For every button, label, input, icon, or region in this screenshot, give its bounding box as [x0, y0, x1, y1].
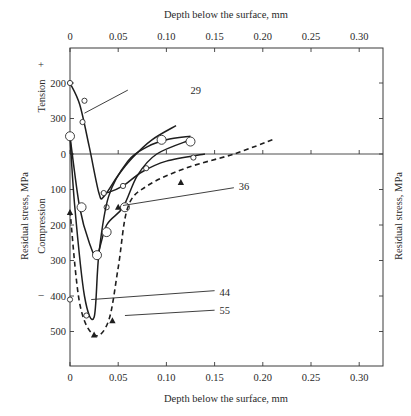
x-tick-label-bottom: 0 — [67, 372, 72, 383]
circle-marker — [101, 190, 106, 195]
tension-sign: + — [38, 59, 44, 70]
y-axis-title-left: Residual stress, MPa — [19, 172, 30, 260]
x-tick-label-bottom: 0.05 — [109, 372, 127, 383]
circle-marker — [191, 155, 196, 160]
x-axis-title-top: Depth below the surface, mm — [164, 9, 288, 20]
x-axis-title-bottom: Depth below the surface, mm — [164, 393, 288, 404]
x-tick-label-top: 0.05 — [109, 31, 127, 42]
tension-label: Tension — [36, 79, 47, 113]
circle-marker — [120, 183, 125, 188]
x-tick-label-bottom: 0.15 — [205, 372, 223, 383]
x-tick-label-top: 0.20 — [254, 31, 272, 42]
y-tick-label: 200 — [50, 78, 66, 89]
circle-marker — [92, 251, 101, 260]
y-tick-label: 100 — [50, 184, 66, 195]
leader-line — [91, 291, 214, 300]
compression-sign: – — [37, 289, 44, 300]
leader-line — [123, 188, 234, 206]
y-tick-label: 400 — [50, 291, 66, 302]
leader-line — [84, 90, 127, 113]
x-tick-label-top: 0.15 — [205, 31, 223, 42]
y-tick-label: 200 — [50, 220, 66, 231]
y-tick-label: 300 — [50, 113, 66, 124]
x-tick-label-bottom: 0.30 — [350, 372, 368, 383]
series-large-circles — [66, 132, 196, 260]
x-tick-label-top: 0 — [67, 31, 72, 42]
x-tick-label-top: 0.30 — [350, 31, 368, 42]
circle-marker — [82, 98, 87, 103]
y-axis-title-right: Residual stress, MPa — [393, 172, 404, 260]
curve-label-29: 29 — [191, 85, 202, 96]
circle-marker — [66, 132, 75, 141]
series-44 — [67, 136, 190, 319]
series-36 — [101, 154, 205, 210]
x-tick-label-bottom: 0.10 — [157, 372, 175, 383]
curve-line — [70, 136, 191, 319]
circle-marker — [157, 135, 166, 144]
y-tick-label: 300 — [50, 255, 66, 266]
curve-label-55: 55 — [219, 305, 230, 316]
x-tick-label-bottom: 0.20 — [254, 372, 272, 383]
series-55 — [67, 140, 273, 338]
triangle-marker — [67, 209, 73, 215]
circle-marker — [186, 137, 195, 146]
y-tick-label: 500 — [50, 326, 66, 337]
circle-marker — [67, 80, 72, 85]
curve-labels: 29364455 — [84, 85, 249, 316]
circle-marker — [67, 297, 72, 302]
y-tick-label: 0 — [61, 149, 66, 160]
triangle-marker — [91, 332, 97, 338]
y-ticks: 2003000100200300400500 — [50, 78, 383, 338]
leader-line — [125, 310, 215, 315]
curve-label-44: 44 — [219, 287, 230, 298]
compression-label: Compression — [36, 198, 47, 254]
curve-label-36: 36 — [239, 181, 250, 192]
x-tick-label-top: 0.10 — [157, 31, 175, 42]
x-ticks: 000.050.050.100.100.150.150.200.200.250.… — [67, 31, 368, 383]
curve-line — [101, 154, 205, 193]
circle-marker — [102, 228, 111, 237]
circle-marker — [84, 313, 89, 318]
x-tick-label-top: 0.25 — [302, 31, 320, 42]
x-tick-label-bottom: 0.25 — [302, 372, 320, 383]
circle-marker — [77, 203, 86, 212]
residual-stress-chart: Depth below the surface, mm Depth below … — [0, 0, 411, 416]
triangle-marker — [178, 179, 184, 185]
circle-marker — [80, 119, 85, 124]
